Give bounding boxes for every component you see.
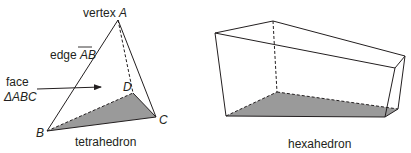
- edge-ab-label: edge AB: [50, 48, 96, 62]
- vertex-d-label: D: [123, 80, 132, 94]
- tetrahedron-base-face: [47, 93, 156, 131]
- hexahedron-caption: hexahedron: [288, 137, 351, 151]
- face-label-line2: ΔABC: [3, 90, 37, 104]
- hex-edge-front-left: [215, 33, 226, 116]
- face-arrow-icon: [37, 87, 101, 89]
- hexahedron-bottom-face: [226, 92, 398, 117]
- vertex-a-label: vertex A: [83, 6, 127, 20]
- polyhedra-diagram: vertex A edge AB face ΔABC B C D tetrahe…: [0, 0, 411, 153]
- tetrahedron-figure: vertex A edge AB face ΔABC B C D tetrahe…: [3, 6, 168, 149]
- hex-edge-back-right: [398, 56, 405, 109]
- vertex-b-label: B: [36, 126, 44, 140]
- hex-edge-top-back: [273, 21, 405, 56]
- hex-edge-top-left: [215, 21, 273, 33]
- face-label-line1: face: [6, 75, 29, 89]
- hexahedron-figure: hexahedron: [215, 21, 405, 151]
- hex-edge-back-left-hidden: [273, 21, 277, 92]
- vertex-c-label: C: [159, 113, 168, 127]
- hex-edge-top-front: [215, 33, 395, 68]
- tetrahedron-caption: tetrahedron: [75, 135, 136, 149]
